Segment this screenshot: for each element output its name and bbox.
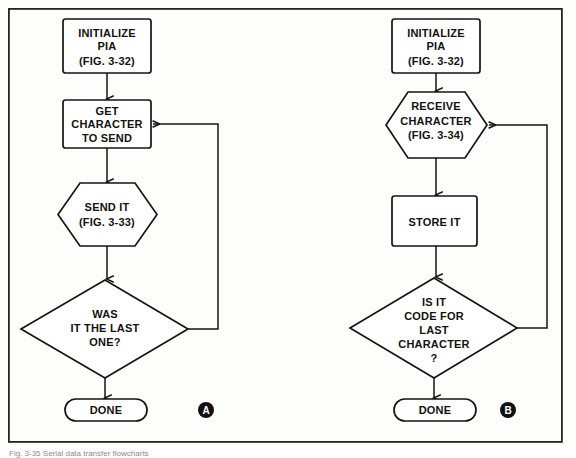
node-send-it-line-2: (FIG. 3-33)	[79, 216, 135, 228]
node-is-it-code-line-4: CHARACTER	[398, 338, 469, 350]
edge-loop-back-to-get	[153, 124, 218, 329]
node-initialize-pia-line-2: PIA	[98, 40, 117, 52]
node-done-label: DONE	[90, 404, 123, 416]
figure-canvas: INITIALIZE PIA (FIG. 3-32) GET CHARACTER…	[0, 0, 576, 458]
figure-caption-text: Fig. 3-35 Serial data transfer flowchart…	[9, 449, 149, 458]
node-is-it-code-line-5: ?	[431, 352, 438, 364]
panel-b-badge-label: B	[504, 405, 511, 416]
figure-caption: Fig. 3-35 Serial data transfer flowchart…	[9, 449, 149, 458]
node-is-it-code-line-2: CODE FOR	[404, 310, 464, 322]
node-was-it-last-line-3: ONE?	[89, 336, 120, 348]
node-was-it-last-line-1: WAS	[92, 308, 118, 320]
flowchart-diagram: INITIALIZE PIA (FIG. 3-32) GET CHARACTER…	[0, 0, 576, 458]
panel-b: INITIALIZE PIA (FIG. 3-32) RECEIVE CHARA…	[350, 19, 547, 421]
panel-a-badge: A	[198, 402, 214, 418]
node-initialize-pia-line-3: (FIG. 3-32)	[79, 55, 135, 67]
node-get-character-line-2: CHARACTER	[71, 118, 142, 130]
node-done: DONE	[394, 399, 476, 421]
node-receive-character-line-1: RECEIVE	[411, 100, 461, 112]
node-initialize-pia-line-1: INITIALIZE	[407, 27, 465, 39]
node-store-it: STORE IT	[392, 196, 477, 246]
node-initialize-pia: INITIALIZE PIA (FIG. 3-32)	[392, 19, 480, 73]
node-receive-character-line-3: (FIG. 3-34)	[408, 129, 464, 141]
panel-a-badge-label: A	[202, 405, 209, 416]
edge-loop-back-to-receive	[489, 125, 547, 328]
node-send-it-line-1: SEND IT	[85, 201, 130, 213]
node-is-it-code-for-last-character: IS IT CODE FOR LAST CHARACTER ?	[350, 278, 517, 378]
node-is-it-code-line-3: LAST	[419, 324, 449, 336]
node-get-character-line-1: GET	[95, 105, 118, 117]
node-receive-character: RECEIVE CHARACTER (FIG. 3-34)	[386, 92, 487, 158]
node-done: DONE	[65, 399, 147, 421]
node-store-it-label: STORE IT	[408, 216, 460, 228]
node-receive-character-line-2: CHARACTER	[400, 115, 471, 127]
node-initialize-pia-line-1: INITIALIZE	[78, 27, 136, 39]
node-initialize-pia-line-3: (FIG. 3-32)	[408, 55, 464, 67]
node-get-character-to-send: GET CHARACTER TO SEND	[63, 100, 151, 148]
node-initialize-pia-line-2: PIA	[427, 40, 446, 52]
panel-a: INITIALIZE PIA (FIG. 3-32) GET CHARACTER…	[21, 19, 218, 421]
node-done-label: DONE	[419, 404, 452, 416]
node-is-it-code-line-1: IS IT	[422, 296, 446, 308]
panel-b-badge: B	[500, 402, 516, 418]
node-was-it-the-last-one: WAS IT THE LAST ONE?	[21, 280, 188, 378]
node-was-it-last-line-2: IT THE LAST	[71, 322, 140, 334]
node-get-character-line-3: TO SEND	[82, 132, 132, 144]
node-send-it: SEND IT (FIG. 3-33)	[58, 183, 157, 246]
node-initialize-pia: INITIALIZE PIA (FIG. 3-32)	[63, 19, 151, 73]
